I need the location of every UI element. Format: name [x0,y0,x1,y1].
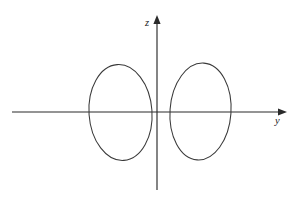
z-axis-arrowhead [153,15,160,24]
z-axis-group: z [144,15,161,190]
y-axis-group: y [12,108,287,126]
coordinate-plot: y z [0,0,296,200]
z-axis-label: z [144,17,149,28]
y-axis-label: y [274,115,280,126]
figure-canvas: y z [0,0,296,200]
